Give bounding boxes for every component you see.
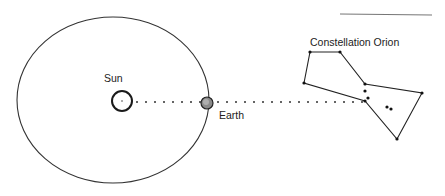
star-icon — [363, 99, 366, 102]
star-icon — [308, 50, 311, 53]
star-icon — [338, 50, 341, 53]
star-icon — [363, 89, 366, 92]
star-icon — [395, 137, 398, 140]
star-icon — [302, 81, 305, 84]
orion-constellation-outline — [304, 52, 422, 139]
earth-label: Earth — [219, 109, 244, 121]
orion-stars — [302, 50, 423, 140]
sun-earth-orion-diagram: Sun Earth Constellation Orion — [0, 0, 445, 196]
star-icon — [385, 105, 388, 108]
top-scan-line — [340, 14, 432, 15]
star-icon — [366, 96, 369, 99]
constellation-orion-label: Constellation Orion — [310, 36, 399, 48]
sun-label: Sun — [104, 72, 123, 84]
star-icon — [363, 82, 366, 85]
earth-texture — [203, 99, 209, 105]
star-icon — [389, 107, 392, 110]
sun-center-dot — [121, 100, 123, 102]
star-icon — [420, 91, 423, 94]
